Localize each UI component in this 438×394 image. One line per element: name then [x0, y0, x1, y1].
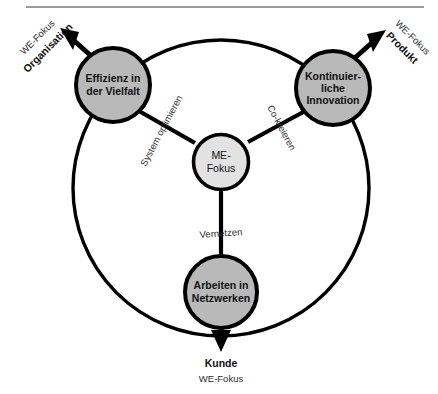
spoke-label-vernetzen: Vernetzen [199, 226, 242, 240]
outcome-kunde-sub: WE-Fokus [199, 373, 244, 384]
diagram-canvas: ME- Fokus Effizienz in der Vielfalt Kont… [0, 0, 438, 394]
node-effizienz-label-line2: der Vielfalt [86, 85, 140, 97]
node-effizienz-label-line1: Effizienz in [86, 72, 141, 84]
node-netzwerke-label-line1: Arbeiten in [194, 279, 249, 291]
node-innovation-label-line3: Innovation [306, 94, 359, 106]
node-innovation-label-line2: liche [321, 82, 345, 94]
outcome-kunde: Kunde WE-Fokus [199, 357, 244, 384]
node-netzwerke-label-line2: Netzwerken [192, 292, 250, 304]
outcome-produkt: WE-Fokus Produkt [383, 18, 433, 68]
hub-label-line2: Fokus [207, 162, 236, 174]
outcome-kunde-main: Kunde [205, 357, 238, 369]
hub-label-line1: ME- [211, 149, 231, 161]
node-innovation-label-line1: Kontinuier- [305, 70, 361, 82]
me-we-fokus-diagram: ME- Fokus Effizienz in der Vielfalt Kont… [0, 0, 438, 394]
outcome-organisation: WE-Fokus Organisation [10, 10, 74, 74]
